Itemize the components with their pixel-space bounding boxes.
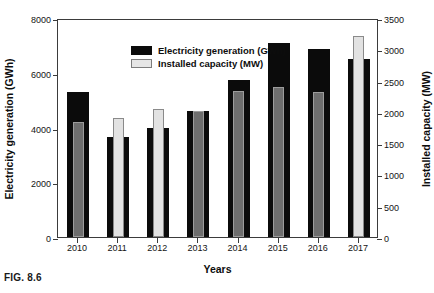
x-axis-tick-label: 2016 [308, 243, 328, 253]
bar-installed-capacity [313, 92, 324, 237]
chart-legend: Electricity generation (GWh) Installed c… [131, 45, 286, 69]
y-axis-right-tick [377, 145, 382, 146]
y-axis-right-tick-label: 2500 [384, 78, 404, 88]
y-axis-right-tick-label: 3500 [384, 15, 404, 25]
y-axis-right-tick-label: 3000 [384, 46, 404, 56]
x-axis-tick-label: 2014 [228, 243, 248, 253]
y-axis-right-tick-label: 1000 [384, 171, 404, 181]
legend-swatch-generation [131, 46, 152, 55]
x-axis-title: Years [57, 263, 378, 275]
x-axis-tick-label: 2013 [187, 243, 207, 253]
x-axis-tick-label: 2015 [268, 243, 288, 253]
y-axis-right-tick-label: 2000 [384, 109, 404, 119]
y-axis-right-tick [377, 114, 382, 115]
y-axis-left-tick-label: 6000 [31, 70, 51, 80]
y-axis-left-tick [53, 239, 58, 240]
bar-installed-capacity [153, 109, 164, 237]
x-axis-tick-label: 2017 [348, 243, 368, 253]
bar-installed-capacity [233, 91, 244, 237]
y-axis-right-tick [377, 208, 382, 209]
y-axis-left-tick-label: 0 [46, 234, 51, 244]
y-axis-right-tick [377, 239, 382, 240]
bar-installed-capacity [353, 36, 364, 237]
y-axis-right-tick-label: 1500 [384, 140, 404, 150]
bar-installed-capacity [273, 87, 284, 237]
bar-group [107, 18, 129, 237]
y-axis-left-tick [53, 20, 58, 21]
y-axis-right-title: Installed capacity (MW) [419, 19, 433, 238]
y-axis-left-tick-label: 8000 [31, 15, 51, 25]
legend-swatch-capacity [131, 59, 152, 68]
y-axis-right-tick-label: 500 [384, 203, 399, 213]
legend-item-capacity: Installed capacity (MW) [131, 58, 286, 69]
y-axis-left-tick-label: 2000 [31, 179, 51, 189]
bar-installed-capacity [73, 122, 84, 237]
y-axis-right-tick [377, 20, 382, 21]
bar-group [67, 18, 89, 237]
y-axis-left-tick [53, 130, 58, 131]
figure-caption: FIG. 8.6 [4, 272, 42, 283]
y-axis-right-tick [377, 176, 382, 177]
x-axis-tick-label: 2010 [67, 243, 87, 253]
bar-installed-capacity [193, 111, 204, 237]
y-axis-left-tick-label: 4000 [31, 125, 51, 135]
y-axis-left-tick [53, 184, 58, 185]
bar-group [348, 18, 370, 237]
legend-label-capacity: Installed capacity (MW) [158, 58, 263, 69]
y-axis-right-tick-label: 0 [384, 234, 389, 244]
y-axis-left-title: Electricity generation (GWh) [2, 19, 16, 238]
plot-area: 02000400060008000 0500100015002000250030… [57, 19, 378, 238]
y-axis-left-tick [53, 75, 58, 76]
x-axis-tick-label: 2011 [108, 243, 127, 253]
legend-item-generation: Electricity generation (GWh) [131, 45, 286, 56]
y-axis-right-tick [377, 51, 382, 52]
bar-group [308, 18, 330, 237]
figure-panel: Electricity generation (GWh) Installed c… [0, 0, 434, 293]
bar-installed-capacity [113, 118, 124, 237]
legend-label-generation: Electricity generation (GWh) [158, 45, 286, 56]
x-axis-tick-label: 2012 [147, 243, 167, 253]
y-axis-right-tick [377, 83, 382, 84]
